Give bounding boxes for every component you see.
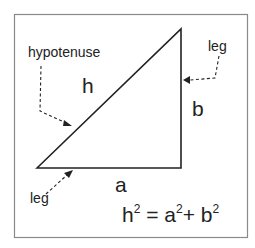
formula-a: a: [164, 203, 176, 226]
formula-b: b: [201, 203, 213, 226]
side-b-label: b: [192, 97, 204, 120]
side-a-label: a: [115, 173, 127, 196]
pythagorean-diagram: hypotenuse leg leg h b a h2 = a2+ b2: [0, 0, 255, 248]
formula-equals: =: [140, 203, 164, 226]
leg-bottom-pointer-line: [46, 175, 67, 194]
formula-plus: +: [183, 203, 201, 226]
formula-h: h: [122, 203, 134, 226]
leg-right-label: leg: [208, 38, 227, 54]
side-h-label: h: [82, 74, 94, 97]
formula-exp-b: 2: [212, 202, 219, 216]
hypotenuse-arrowhead-icon: [63, 120, 72, 126]
leg-right-pointer-line: [190, 56, 219, 80]
leg-right-arrowhead-icon: [183, 76, 190, 84]
leg-bottom-label: leg: [30, 190, 49, 206]
leg-bottom-arrowhead-icon: [64, 170, 73, 178]
pythagorean-formula: h2 = a2+ b2: [122, 202, 219, 226]
hypotenuse-pointer-line: [40, 66, 66, 123]
hypotenuse-label: hypotenuse: [28, 44, 101, 60]
